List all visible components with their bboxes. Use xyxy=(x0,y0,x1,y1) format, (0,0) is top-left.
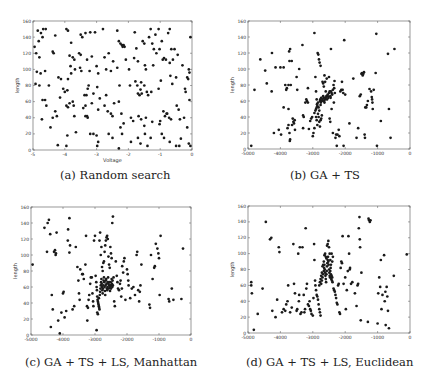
data-point xyxy=(277,246,280,249)
data-point xyxy=(333,290,336,293)
data-point xyxy=(297,252,300,255)
data-point xyxy=(281,311,284,314)
data-point xyxy=(377,292,380,295)
data-point xyxy=(304,227,307,230)
data-point xyxy=(303,311,306,314)
data-point xyxy=(360,271,363,274)
data-point xyxy=(359,246,362,249)
y-tick-label: 20 xyxy=(240,315,246,320)
data-point xyxy=(384,324,387,327)
data-point xyxy=(322,260,325,263)
caption-d: (d) GA + TS + LS, Euclidean xyxy=(246,355,413,369)
data-point xyxy=(341,235,344,238)
data-point xyxy=(314,284,317,287)
x-tick-label: -1000 xyxy=(371,335,384,340)
data-point xyxy=(334,294,337,297)
data-point xyxy=(325,257,328,260)
x-tick-label: -4000 xyxy=(274,335,287,340)
y-tick-label: 40 xyxy=(240,299,246,304)
data-point xyxy=(252,328,255,331)
data-point xyxy=(296,308,299,311)
data-point xyxy=(256,313,259,316)
data-point xyxy=(319,278,322,281)
data-point xyxy=(324,252,327,255)
data-point xyxy=(331,260,334,263)
data-point xyxy=(384,290,387,293)
data-point xyxy=(392,275,395,278)
data-point xyxy=(271,309,274,312)
data-point xyxy=(289,311,292,314)
data-point xyxy=(293,282,296,285)
data-point xyxy=(329,267,332,270)
x-tick-label: -3000 xyxy=(306,335,319,340)
data-point xyxy=(328,246,331,249)
data-point xyxy=(405,253,408,256)
y-tick-label: 140 xyxy=(237,219,246,224)
data-point xyxy=(339,313,342,316)
data-point xyxy=(376,322,379,325)
data-point xyxy=(305,287,308,290)
data-point xyxy=(250,281,253,284)
data-point xyxy=(319,281,322,284)
scatter-plot-d: -5000-4000-3000-2000-1000002040608010012… xyxy=(0,0,431,388)
data-point xyxy=(270,236,273,239)
data-point xyxy=(348,252,351,255)
data-point xyxy=(320,275,323,278)
data-point xyxy=(379,286,382,289)
data-point xyxy=(345,289,348,292)
data-point xyxy=(326,243,329,246)
x-tick-label: -2000 xyxy=(339,335,352,340)
data-point xyxy=(351,281,354,284)
data-point xyxy=(313,243,316,246)
data-point xyxy=(325,281,328,284)
data-point xyxy=(250,284,253,287)
data-point xyxy=(321,271,324,274)
data-point xyxy=(329,270,332,273)
data-point xyxy=(274,316,277,319)
data-point xyxy=(276,298,279,301)
data-point xyxy=(318,308,321,311)
data-point xyxy=(388,327,391,330)
data-point xyxy=(264,221,267,224)
x-tick-label: -5000 xyxy=(241,335,254,340)
data-point xyxy=(327,240,330,243)
data-point xyxy=(357,227,360,230)
x-tick-label: 0 xyxy=(409,335,412,340)
data-point xyxy=(298,294,301,297)
data-point xyxy=(319,314,322,317)
data-point xyxy=(315,289,318,292)
y-tick-label: 0 xyxy=(243,331,246,336)
data-point xyxy=(290,306,293,309)
data-point xyxy=(312,297,315,300)
data-point xyxy=(330,263,333,266)
data-point xyxy=(319,311,322,314)
data-point xyxy=(325,273,328,276)
data-point xyxy=(336,303,339,306)
data-point xyxy=(358,238,361,241)
data-point xyxy=(383,300,386,303)
data-point xyxy=(285,303,288,306)
data-point xyxy=(311,314,314,317)
data-point xyxy=(301,246,304,249)
data-point xyxy=(369,219,372,222)
data-point xyxy=(335,297,338,300)
data-point xyxy=(341,262,344,265)
data-point xyxy=(383,254,386,257)
data-point xyxy=(261,287,264,290)
data-point xyxy=(330,252,333,255)
data-point xyxy=(367,321,370,324)
data-point xyxy=(386,295,389,298)
data-point xyxy=(331,276,334,279)
data-point xyxy=(294,292,297,295)
data-point xyxy=(344,308,347,311)
data-point xyxy=(292,243,295,246)
y-tick-label: 60 xyxy=(240,283,246,288)
data-point xyxy=(332,255,335,258)
data-point xyxy=(318,284,321,287)
caption-a: (a) Random search xyxy=(60,168,170,182)
data-point xyxy=(385,286,388,289)
data-point xyxy=(349,267,352,270)
data-point xyxy=(317,298,320,301)
data-point xyxy=(316,295,319,298)
data-point xyxy=(314,279,317,282)
